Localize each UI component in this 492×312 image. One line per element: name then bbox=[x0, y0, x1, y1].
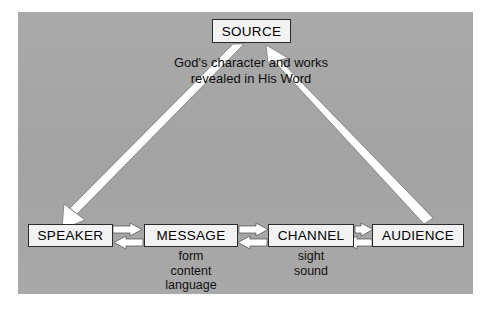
connector-message-channel bbox=[238, 223, 268, 249]
node-audience-label: AUDIENCE bbox=[382, 228, 454, 243]
diagram-connectors bbox=[0, 0, 492, 312]
node-message[interactable]: MESSAGE bbox=[144, 224, 238, 247]
node-channel[interactable]: CHANNEL bbox=[268, 224, 354, 247]
message-attributes-label: form content language bbox=[144, 249, 238, 293]
diagram-caption: God's character and works revealed in Hi… bbox=[146, 55, 356, 86]
node-speaker-label: SPEAKER bbox=[38, 228, 104, 243]
node-message-label: MESSAGE bbox=[157, 228, 226, 243]
connector-speaker-message bbox=[113, 223, 143, 249]
node-audience[interactable]: AUDIENCE bbox=[372, 224, 464, 247]
node-channel-label: CHANNEL bbox=[278, 228, 345, 243]
node-source-label: SOURCE bbox=[222, 24, 282, 39]
channel-attributes-label: sight sound bbox=[268, 249, 354, 278]
node-source[interactable]: SOURCE bbox=[212, 19, 291, 43]
diagram-canvas: SOURCE God's character and works reveale… bbox=[0, 0, 492, 312]
node-speaker[interactable]: SPEAKER bbox=[28, 224, 113, 247]
